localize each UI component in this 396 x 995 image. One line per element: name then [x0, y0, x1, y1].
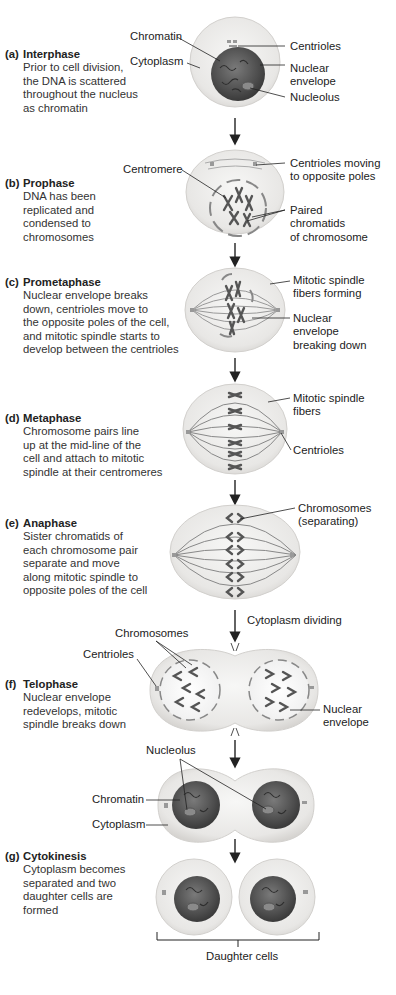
label-nucleolus-late: Nucleolus [146, 744, 196, 757]
stage-desc-line: spindle at their centromeres [23, 466, 162, 479]
label-line: Nuclear [293, 312, 332, 324]
label-line: fibers [293, 405, 321, 417]
label-metaphase-centrioles: Centrioles [293, 444, 344, 457]
stage-name: Prometaphase [23, 276, 101, 288]
label-centromere: Centromere [123, 163, 183, 176]
daughter-cells [156, 859, 315, 935]
stage-letter: (d) [5, 412, 23, 425]
stage-desc-line: condensed to [23, 217, 96, 230]
label-line: Chromosomes [298, 502, 371, 514]
stage-desc-line: opposite poles of the cell [23, 584, 147, 597]
stage-desc-line: along mitotic spindle to [23, 571, 147, 584]
label-paired-chromatids: Pairedchromatidsof chromosome [290, 204, 368, 244]
stage-telophase: (f)Telophase Nuclear envelope redevelops… [23, 678, 126, 732]
stage-desc-line: up at the mid-line of the [23, 439, 162, 452]
stage-cytokinesis: (g)Cytokinesis Cytoplasm becomes separat… [23, 850, 125, 917]
daughter-cells-bracket [157, 932, 319, 947]
stage-prophase: (b)Prophase DNA has been replicated and … [23, 177, 96, 244]
label-spindle-fibers: Mitotic spindlefibers [293, 392, 365, 419]
stage-desc-line: develop between the centrioles [23, 343, 179, 356]
label-cytoplasm-dividing: Cytoplasm dividing [247, 614, 342, 627]
label-line: envelope [323, 716, 369, 728]
stage-desc-line: each chromosome pair [23, 544, 147, 557]
stage-letter: (b) [5, 177, 23, 190]
stage-desc-line: Chromosome pairs line [23, 425, 162, 438]
label-chromatin: Chromatin [130, 30, 182, 43]
stage-desc-line: the DNA is scattered [23, 75, 138, 88]
label-line: to opposite poles [290, 170, 375, 182]
label-telophase-chromosomes: Chromosomes [115, 627, 188, 640]
label-line: (separating) [298, 515, 358, 527]
stage-desc-line: Nuclear envelope [23, 691, 126, 704]
label-chromatin-late: Chromatin [92, 793, 144, 806]
mitosis-diagram [0, 0, 396, 995]
stage-desc-line: DNA has been [23, 190, 96, 203]
label-line: Paired [290, 204, 323, 216]
stage-letter: (c) [5, 276, 23, 289]
telophase-cell [150, 643, 318, 736]
label-line: Centrioles moving [290, 157, 380, 169]
stage-letter: (e) [5, 517, 23, 530]
stage-letter: (g) [5, 850, 23, 863]
prophase-cell [186, 150, 284, 236]
label-line: Mitotic spindle [293, 392, 365, 404]
label-nucleolus: Nucleolus [290, 91, 340, 104]
stage-desc-line: down, centrioles move to [23, 303, 179, 316]
stage-desc-line: formed [23, 904, 125, 917]
label-line: envelope [293, 325, 339, 337]
prometaphase-cell [185, 268, 285, 352]
stage-name: Interphase [23, 48, 80, 60]
stage-desc-line: and mitotic spindle starts to [23, 330, 179, 343]
stage-desc-line: Prior to cell division, [23, 61, 138, 74]
label-nuclear-envelope: Nuclearenvelope [290, 62, 336, 89]
stage-desc-line: Nuclear envelope breaks [23, 289, 179, 302]
anaphase-cell [170, 505, 300, 599]
stage-desc-line: as chromatin [23, 102, 138, 115]
stage-letter: (a) [5, 48, 23, 61]
label-cytoplasm: Cytoplasm [130, 55, 183, 68]
stage-metaphase: (d)Metaphase Chromosome pairs line up at… [23, 412, 162, 479]
stage-interphase: (a)Interphase Prior to cell division, th… [23, 48, 138, 115]
stage-desc-line: throughout the nucleus [23, 88, 138, 101]
label-envelope-breaking: Nuclearenvelopebreaking down [293, 312, 366, 352]
stage-desc-line: Sister chromatids of [23, 530, 147, 543]
stage-name: Prophase [23, 177, 74, 189]
label-chromosomes-separating: Chromosomes(separating) [298, 502, 371, 529]
stage-desc-line: separated and two [23, 877, 125, 890]
label-line: Nuclear [323, 703, 362, 715]
stage-desc-line: redevelops, mitotic [23, 705, 126, 718]
label-telophase-envelope: Nuclearenvelope [323, 703, 369, 730]
late-telophase-cell [158, 769, 314, 842]
label-line: fibers forming [293, 287, 361, 299]
label-centrioles-moving: Centrioles movingto opposite poles [290, 157, 380, 184]
stage-name: Anaphase [23, 517, 77, 529]
label-line: chromatids [290, 217, 345, 229]
label-cytoplasm-late: Cytoplasm [92, 818, 145, 831]
stage-letter: (f) [5, 678, 23, 691]
interphase-cell [190, 17, 280, 107]
stage-desc-line: chromosomes [23, 231, 96, 244]
stage-prometaphase: (c)Prometaphase Nuclear envelope breaks … [23, 276, 179, 356]
stage-desc-line: replicated and [23, 204, 96, 217]
stage-name: Metaphase [23, 412, 81, 424]
stage-name: Telophase [23, 678, 78, 690]
stage-desc-line: separate and move [23, 557, 147, 570]
label-line: breaking down [293, 339, 366, 351]
label-line: envelope [290, 75, 336, 87]
stage-desc-line: daughter cells are [23, 890, 125, 903]
stage-anaphase: (e)Anaphase Sister chromatids of each ch… [23, 517, 147, 597]
label-spindle-forming: Mitotic spindlefibers forming [293, 274, 365, 301]
label-centrioles: Centrioles [290, 40, 341, 53]
stage-desc-line: cell and attach to mitotic [23, 452, 162, 465]
stage-desc-line: the opposite poles of the cell, [23, 316, 179, 329]
label-line: of chromosome [290, 231, 368, 243]
metaphase-cell [183, 384, 287, 474]
label-line: Mitotic spindle [293, 274, 365, 286]
label-line: Nuclear [290, 62, 329, 74]
label-daughter-cells: Daughter cells [206, 950, 278, 963]
stage-desc-line: Cytoplasm becomes [23, 863, 125, 876]
label-telophase-centrioles: Centrioles [83, 648, 134, 661]
stage-name: Cytokinesis [23, 850, 86, 862]
stage-desc-line: spindle breaks down [23, 718, 126, 731]
